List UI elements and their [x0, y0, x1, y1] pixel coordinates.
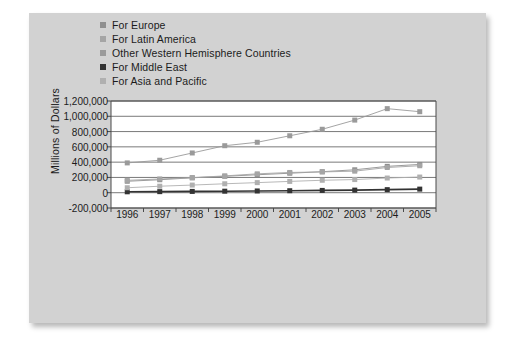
y-tick-label: 1,200,000: [36, 96, 108, 107]
figure-panel: For Europe For Latin America Other Weste…: [29, 13, 486, 323]
x-tick-label: 2005: [409, 209, 431, 220]
data-point-marker: [190, 150, 195, 155]
plot-area-wrapper: Millions of Dollars 1,200,0001,000,00080…: [29, 13, 486, 323]
data-point-marker: [287, 179, 292, 184]
data-point-marker: [222, 181, 227, 186]
x-tick-label: 1999: [214, 209, 236, 220]
data-point-marker: [157, 189, 162, 194]
data-point-marker: [320, 169, 325, 174]
data-point-marker: [320, 127, 325, 132]
data-point-marker: [255, 188, 260, 193]
data-point-marker: [352, 177, 357, 182]
data-point-marker: [157, 184, 162, 189]
data-point-marker: [255, 140, 260, 145]
y-tick-label: 200,000: [36, 172, 108, 183]
x-tick-label: 2002: [311, 209, 333, 220]
data-point-marker: [417, 109, 422, 114]
data-point-marker: [320, 178, 325, 183]
y-tick-label: 0: [36, 187, 108, 198]
data-point-marker: [190, 183, 195, 188]
x-tick-label: 2003: [344, 209, 366, 220]
x-tick-label: 1998: [181, 209, 203, 220]
y-tick-label: 1,000,000: [36, 111, 108, 122]
data-point-marker: [255, 171, 260, 176]
x-tick-label: 2000: [246, 209, 268, 220]
y-axis-tick-labels: 1,200,0001,000,000800,000600,000400,0002…: [29, 13, 108, 323]
data-point-marker: [287, 170, 292, 175]
data-point-marker: [125, 185, 130, 190]
data-point-marker: [352, 118, 357, 123]
x-tick-label: 2001: [279, 209, 301, 220]
data-point-marker: [222, 173, 227, 178]
data-point-marker: [417, 187, 422, 192]
y-tick-label: -200,000: [36, 203, 108, 214]
x-tick-label: 2004: [376, 209, 398, 220]
data-point-marker: [255, 180, 260, 185]
data-point-marker: [190, 189, 195, 194]
data-point-marker: [157, 176, 162, 181]
data-point-marker: [125, 160, 130, 165]
data-point-marker: [385, 165, 390, 170]
data-point-marker: [417, 163, 422, 168]
data-point-marker: [157, 158, 162, 163]
data-point-marker: [287, 188, 292, 193]
data-point-marker: [222, 143, 227, 148]
data-point-marker: [352, 188, 357, 193]
data-point-marker: [385, 106, 390, 111]
data-point-marker: [125, 178, 130, 183]
y-tick-label: 800,000: [36, 126, 108, 137]
data-point-marker: [222, 189, 227, 194]
data-point-marker: [287, 133, 292, 138]
data-point-marker: [385, 187, 390, 192]
x-tick-label: 1996: [116, 209, 138, 220]
data-point-marker: [352, 169, 357, 174]
x-tick-label: 1997: [149, 209, 171, 220]
y-tick-label: 400,000: [36, 157, 108, 168]
data-point-marker: [190, 175, 195, 180]
y-tick-label: 600,000: [36, 141, 108, 152]
data-point-marker: [320, 188, 325, 193]
data-point-marker: [385, 176, 390, 181]
chart-page: For Europe For Latin America Other Weste…: [0, 0, 512, 337]
data-point-marker: [417, 175, 422, 180]
